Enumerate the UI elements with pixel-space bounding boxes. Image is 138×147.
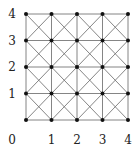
grid-node: [50, 12, 54, 16]
grid-node: [75, 118, 79, 122]
y-axis-label: 1: [8, 87, 16, 101]
grid-node: [50, 65, 54, 69]
x-axis-label: 1: [48, 133, 56, 147]
grid-node: [24, 65, 28, 69]
grid-diagram: 012341234: [0, 0, 138, 147]
grid-node: [75, 65, 79, 69]
grid-node: [24, 118, 28, 122]
x-axis-label: 3: [99, 133, 107, 147]
grid-node: [75, 92, 79, 96]
grid-node: [75, 12, 79, 16]
grid-node: [126, 118, 130, 122]
grid-node: [50, 118, 54, 122]
grid-node: [24, 12, 28, 16]
grid-node: [50, 39, 54, 43]
y-axis-label: 4: [8, 7, 16, 21]
grid-node: [126, 39, 130, 43]
grid-node: [24, 39, 28, 43]
grid-node: [101, 12, 105, 16]
grid-node: [75, 39, 79, 43]
x-axis-label: 2: [73, 133, 81, 147]
grid-node: [101, 92, 105, 96]
grid-node: [50, 92, 54, 96]
x-axis-label: 0: [8, 133, 16, 147]
grid-node: [126, 12, 130, 16]
grid-node: [101, 118, 105, 122]
y-axis-label: 2: [8, 60, 16, 74]
grid-node: [101, 65, 105, 69]
grid-node: [24, 92, 28, 96]
grid-node: [126, 65, 130, 69]
grid-node: [126, 92, 130, 96]
grid-node: [101, 39, 105, 43]
x-axis-label: 4: [124, 133, 132, 147]
y-axis-label: 3: [8, 34, 16, 48]
